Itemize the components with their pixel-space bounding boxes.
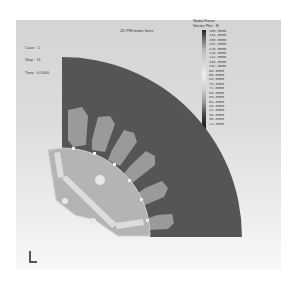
axis-triad-icon bbox=[30, 251, 37, 262]
motor-geometry[interactable] bbox=[0, 0, 295, 286]
